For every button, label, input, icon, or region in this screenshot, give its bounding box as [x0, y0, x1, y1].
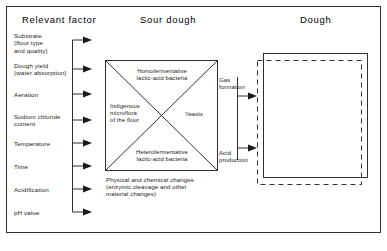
quadrant-yeasts: Yeasts	[175, 111, 213, 118]
outer-frame	[7, 7, 381, 233]
factor-arrowheads	[83, 37, 92, 216]
factor-substrate: Substrate (flour type and quality)	[14, 32, 48, 54]
column-header-relevant-factor: Relevant factor	[22, 14, 96, 25]
dough-dashed-rectangle	[258, 61, 362, 185]
flow-label-gas-formation: Gas formation	[219, 77, 259, 91]
factor-acidification: Acidification	[14, 186, 49, 193]
factor-dough-yield: Dough yield (water absorption)	[14, 62, 67, 77]
column-header-dough: Dough	[300, 14, 332, 25]
sour-dough-process-diagram: Relevant factor Sour dough Dough Substra…	[0, 0, 387, 251]
flow-label-acid-production: Acid production	[219, 150, 261, 164]
quadrant-indigenous-microflora: Indigenous microflora of the flour	[110, 103, 158, 124]
factor-time: Time	[14, 163, 28, 170]
column-header-sour-dough: Sour dough	[140, 14, 196, 25]
factor-aeration: Aeration	[14, 91, 38, 98]
factor-temperature: Temperature	[14, 140, 50, 147]
quadrant-homofermentative-lactic-acid-bacteria: Homofermentative lactic-acid bacteria	[123, 68, 201, 82]
quadrant-heterofermentative-lactic-acid-bacteria: Heterofermentative lactic-acid bacteria	[121, 149, 203, 163]
factor-arrows	[73, 40, 84, 212]
factor-sodium-chloride-content: Sodium chloride content	[14, 113, 61, 128]
sour-dough-caption: Physical and chemical changes (enzymic c…	[106, 176, 236, 198]
dough-solid-rectangle	[264, 54, 368, 178]
factor-ph-value: pH value	[14, 209, 40, 216]
